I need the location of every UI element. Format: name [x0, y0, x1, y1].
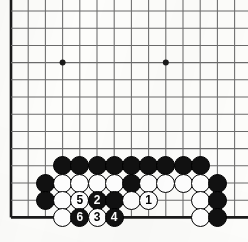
- go-board-diagram: 521634: [0, 0, 248, 242]
- stone-white: [53, 208, 72, 227]
- stone-black: [105, 191, 124, 210]
- stone-white: [174, 174, 193, 193]
- stone-white: [191, 174, 210, 193]
- stone-white-move-5: 5: [70, 191, 89, 210]
- stone-black: [191, 156, 210, 175]
- stone-black: [105, 156, 124, 175]
- stone-layer: 521634: [0, 0, 248, 242]
- stone-white: [53, 191, 72, 210]
- stone-move-number: 3: [94, 211, 101, 223]
- stone-black: [139, 156, 158, 175]
- stone-black: [122, 174, 141, 193]
- stone-black-move-6: 6: [70, 208, 89, 227]
- stone-black: [70, 156, 89, 175]
- stone-white: [156, 174, 175, 193]
- stone-white: [191, 191, 210, 210]
- stone-white-move-1: 1: [139, 191, 158, 210]
- stone-black: [36, 174, 55, 193]
- stone-black: [208, 208, 227, 227]
- stone-move-number: 4: [111, 211, 118, 223]
- stone-white: [53, 174, 72, 193]
- stone-black-move-2: 2: [88, 191, 107, 210]
- stone-black: [88, 156, 107, 175]
- stone-black: [122, 156, 141, 175]
- stone-white: [88, 174, 107, 193]
- stone-black: [174, 156, 193, 175]
- stone-black: [208, 174, 227, 193]
- stone-black: [156, 156, 175, 175]
- stone-black: [53, 156, 72, 175]
- stone-white: [139, 174, 158, 193]
- stone-black: [36, 191, 55, 210]
- stone-move-number: 5: [76, 194, 83, 206]
- stone-white-move-3: 3: [88, 208, 107, 227]
- stone-move-number: 6: [76, 211, 83, 223]
- stone-white: [122, 191, 141, 210]
- stone-move-number: 2: [94, 194, 101, 206]
- stone-white: [105, 174, 124, 193]
- stone-black: [208, 191, 227, 210]
- stone-white: [191, 208, 210, 227]
- stone-white: [70, 174, 89, 193]
- stone-move-number: 1: [145, 194, 152, 206]
- stone-black-move-4: 4: [105, 208, 124, 227]
